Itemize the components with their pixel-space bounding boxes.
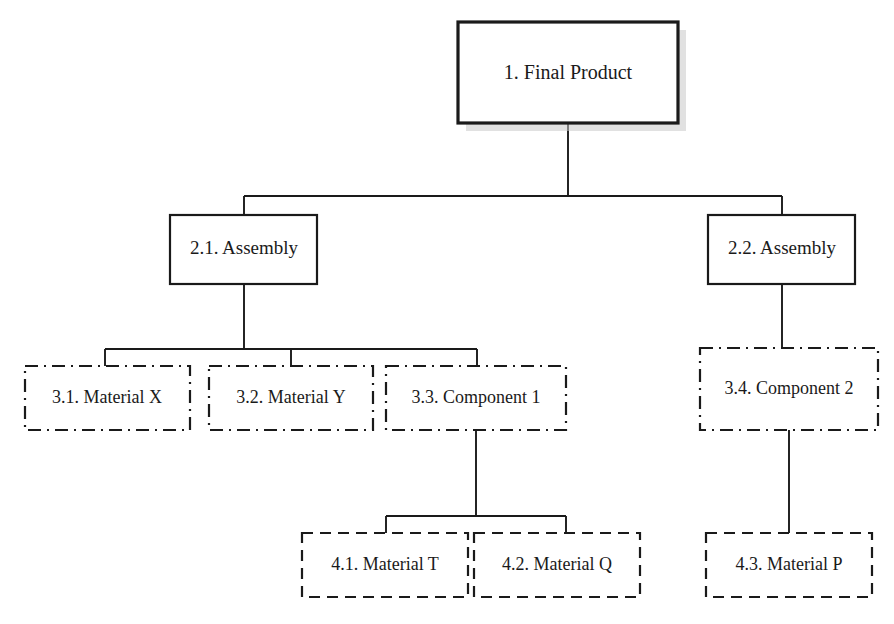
diagram-canvas: 1. Final Product 2.1. Assembly 2.2. Asse… (0, 0, 894, 624)
node-assembly-21[interactable]: 2.1. Assembly (170, 215, 317, 284)
node-label: 4.1. Material T (331, 554, 439, 574)
node-assembly-22[interactable]: 2.2. Assembly (708, 215, 855, 284)
node-material-x[interactable]: 3.1. Material X (25, 366, 190, 430)
node-label: 1. Final Product (504, 61, 633, 83)
connector-layer (105, 123, 789, 533)
node-component-1[interactable]: 3.3. Component 1 (386, 366, 566, 430)
node-label: 2.1. Assembly (190, 237, 299, 258)
node-material-q[interactable]: 4.2. Material Q (474, 533, 640, 597)
node-label: 3.4. Component 2 (725, 378, 854, 398)
node-label: 4.3. Material P (736, 554, 843, 574)
node-material-t[interactable]: 4.1. Material T (302, 533, 468, 597)
node-material-p[interactable]: 4.3. Material P (706, 533, 872, 597)
node-material-y[interactable]: 3.2. Material Y (209, 366, 373, 430)
node-component-2[interactable]: 3.4. Component 2 (700, 348, 878, 430)
bom-tree-diagram: 1. Final Product 2.1. Assembly 2.2. Asse… (0, 0, 894, 624)
node-label: 3.2. Material Y (236, 387, 345, 407)
node-label: 3.1. Material X (52, 387, 162, 407)
node-label: 2.2. Assembly (728, 237, 837, 258)
node-label: 4.2. Material Q (502, 554, 612, 574)
node-label: 3.3. Component 1 (412, 387, 541, 407)
node-final-product[interactable]: 1. Final Product (458, 22, 686, 131)
